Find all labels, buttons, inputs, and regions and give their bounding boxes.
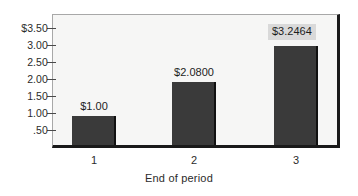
bar-period-1 — [72, 116, 116, 145]
bar-period-2 — [172, 82, 216, 145]
y-axis-tick-label: 2.00 — [2, 74, 48, 84]
x-axis-tick-label-3: 3 — [276, 154, 316, 167]
y-axis-tick-mark — [47, 79, 56, 80]
y-axis-tick-mark — [47, 130, 56, 131]
y-axis-tick-label: .50 — [2, 125, 48, 135]
y-axis-tick-label: $3.50 — [2, 23, 48, 33]
y-axis-tick-label: 1.00 — [2, 108, 48, 118]
y-axis-tick-mark — [47, 45, 56, 46]
y-axis-tick-mark — [47, 96, 56, 97]
y-axis-tick-label: 3.00 — [2, 40, 48, 50]
bar-value-label-1: $1.00 — [64, 100, 124, 113]
y-axis-tick-label: 2.50 — [2, 57, 48, 67]
y-axis-tick-mark — [47, 113, 56, 114]
y-axis-tick-label: 1.50 — [2, 91, 48, 101]
bar-value-label-3: $3.2464 — [268, 24, 316, 40]
x-axis-tick-label-1: 1 — [74, 154, 114, 167]
bar-value-label-2: $2.0800 — [161, 66, 227, 79]
bar-period-3 — [274, 46, 318, 145]
x-axis-tick-label-2: 2 — [174, 154, 214, 167]
x-axis-title: End of period — [0, 172, 358, 184]
y-axis-tick-mark — [47, 62, 56, 63]
bar-chart: $3.50 3.00 2.50 2.00 1.50 1.00 .50 $1.00… — [0, 0, 358, 196]
y-axis-tick-mark — [47, 28, 56, 29]
